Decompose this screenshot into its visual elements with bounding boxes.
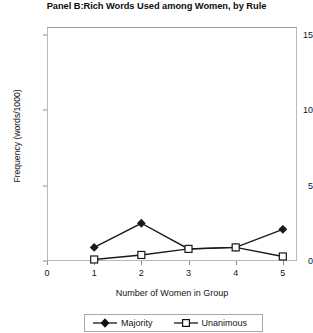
- y-tick-mark: [43, 34, 47, 35]
- x-tick-mark: [47, 261, 48, 265]
- y-tick-label: 10: [273, 105, 313, 115]
- x-tick-label: 2: [126, 268, 156, 278]
- x-tick-label: 0: [32, 268, 62, 278]
- x-tick-label: 5: [268, 268, 298, 278]
- legend-item-majority[interactable]: Majority: [92, 315, 153, 331]
- open-square-marker-icon: [173, 317, 199, 329]
- legend-item-unanimous[interactable]: Unanimous: [173, 315, 248, 331]
- y-tick-label: 15: [273, 30, 313, 40]
- x-tick-mark: [94, 261, 95, 265]
- x-tick-label: 3: [174, 268, 204, 278]
- legend-label-majority: Majority: [121, 318, 153, 328]
- x-tick-mark: [236, 261, 237, 265]
- y-axis-title: Frequency (words/1000): [12, 46, 22, 226]
- plot-area: [47, 27, 297, 261]
- x-tick-mark: [189, 261, 190, 265]
- filled-diamond-marker-icon: [92, 317, 118, 329]
- chart-figure: Panel B:Rich Words Used among Women, by …: [0, 0, 313, 333]
- y-tick-mark: [43, 185, 47, 186]
- legend-label-unanimous: Unanimous: [202, 318, 248, 328]
- x-tick-mark: [283, 261, 284, 265]
- y-tick-label: 0: [273, 256, 313, 266]
- x-tick-label: 1: [79, 268, 109, 278]
- y-tick-mark: [43, 110, 47, 111]
- x-axis-title: Number of Women in Group: [47, 288, 297, 298]
- y-tick-label: 5: [273, 181, 313, 191]
- chart-title: Panel B:Rich Words Used among Women, by …: [0, 0, 313, 12]
- x-tick-mark: [141, 261, 142, 265]
- chart-legend: Majority Unanimous: [84, 314, 263, 332]
- x-tick-label: 4: [221, 268, 251, 278]
